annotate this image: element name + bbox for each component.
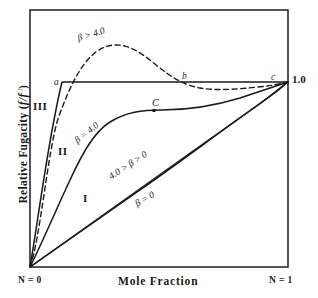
y-axis-title-prefix: Relative Fugacity ( <box>17 105 29 203</box>
y-axis-unity-label: 1.0 <box>292 74 306 85</box>
y-axis-title-suffix: ) <box>17 85 29 89</box>
plot-frame <box>30 10 288 267</box>
region-label-II: II <box>58 146 68 157</box>
region-label-I: I <box>83 193 88 204</box>
point-label-c: c <box>271 73 275 83</box>
fugacity-mole-fraction-figure: Relative Fugacity (f/f□) Mole Fraction N… <box>0 0 318 298</box>
point-label-critical: C <box>152 98 159 109</box>
plot-canvas <box>0 0 318 298</box>
convergence-point-marker <box>287 81 289 83</box>
x-axis-title: Mole Fraction <box>118 276 198 288</box>
y-axis-title-symbol: f/f <box>17 93 29 105</box>
point-label-a: a <box>54 78 59 88</box>
x-axis-right-tick-label: N = 1 <box>269 276 293 286</box>
x-axis-left-tick-label: N = 0 <box>18 276 42 286</box>
y-axis-title: Relative Fugacity (f/f□) <box>17 69 29 219</box>
region-label-III: III <box>33 101 47 112</box>
critical-point-marker <box>153 109 156 112</box>
point-label-b: b <box>182 72 187 82</box>
y-axis-title-superscript: □ <box>16 89 24 94</box>
